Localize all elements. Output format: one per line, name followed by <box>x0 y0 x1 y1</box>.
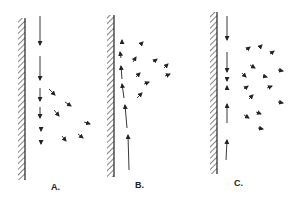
velocity-arrow-icon <box>49 89 55 95</box>
velocity-arrow-icon <box>153 59 157 62</box>
velocity-arrow-icon <box>136 73 140 77</box>
velocity-arrow-icon <box>244 86 248 89</box>
velocity-arrow-icon <box>144 82 149 84</box>
wall-hatch-icon <box>210 12 217 174</box>
velocity-arrow-icon <box>122 84 124 98</box>
panel-b <box>107 15 170 177</box>
velocity-arrow-icon <box>226 140 227 160</box>
velocity-arrow-icon <box>270 51 274 54</box>
velocity-arrow-icon <box>259 45 262 48</box>
panel-a <box>18 16 90 180</box>
velocity-arrow-icon <box>125 105 127 128</box>
velocity-arrow-icon <box>278 70 283 71</box>
velocity-arrow-icon <box>137 93 142 98</box>
velocity-arrow-icon <box>65 102 71 106</box>
velocity-arrow-icon <box>78 134 83 138</box>
velocity-arrow-icon <box>278 102 283 103</box>
panel-c <box>210 12 283 174</box>
velocity-arrow-icon <box>246 47 250 50</box>
velocity-arrow-icon <box>256 112 261 114</box>
velocity-arrow-icon <box>121 66 122 79</box>
velocity-arrow-icon <box>242 73 246 77</box>
velocity-arrow-icon <box>84 122 90 124</box>
velocity-arrow-icon <box>128 135 129 170</box>
velocity-arrow-icon <box>165 74 170 76</box>
velocity-arrow-icon <box>258 128 263 129</box>
panel-label-a: A. <box>51 182 60 192</box>
velocity-arrow-icon <box>133 57 136 62</box>
wall-hatch-icon <box>18 18 25 180</box>
velocity-arrow-icon <box>244 115 249 118</box>
velocity-arrow-icon <box>164 64 168 68</box>
wall-hatch-icon <box>107 15 114 177</box>
panel-label-c: C. <box>234 178 243 188</box>
velocity-arrow-icon <box>54 110 59 116</box>
velocity-arrow-icon <box>120 52 121 58</box>
velocity-arrow-icon <box>267 86 272 88</box>
diagram-canvas <box>0 0 294 198</box>
velocity-arrow-icon <box>249 95 253 99</box>
velocity-arrow-icon <box>250 65 255 68</box>
panel-label-b: B. <box>135 180 144 190</box>
velocity-arrow-icon <box>140 42 143 45</box>
wall-flow-diagram: A. B. C. <box>0 0 294 198</box>
velocity-arrow-icon <box>263 76 267 77</box>
velocity-arrow-icon <box>62 136 66 141</box>
